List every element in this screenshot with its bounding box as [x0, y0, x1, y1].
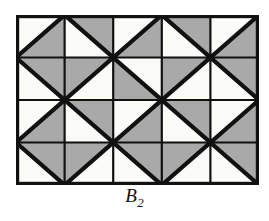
tiling-svg: [16, 15, 259, 185]
caption-subscript: 2: [137, 195, 143, 210]
caption-tilde-accent: ~: [126, 175, 135, 192]
figure-caption: B~2: [0, 186, 269, 210]
figure-container: B~2: [0, 0, 269, 221]
tiling-panel: [16, 15, 259, 185]
caption-symbol: B~: [125, 186, 137, 205]
